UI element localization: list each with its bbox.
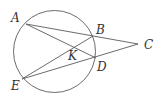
label-a: A: [10, 11, 20, 25]
label-b: B: [95, 23, 105, 37]
segment-eb: [22, 36, 93, 79]
label-d: D: [96, 60, 107, 74]
label-c: C: [144, 38, 153, 52]
segment-ac: [26, 24, 138, 44]
segment-ec: [22, 44, 138, 79]
label-e: E: [10, 79, 20, 93]
label-k: K: [67, 49, 78, 63]
point-labels: A B C D E K: [10, 11, 153, 93]
geometry-diagram: A B C D E K: [0, 0, 164, 100]
segments: [22, 24, 138, 79]
